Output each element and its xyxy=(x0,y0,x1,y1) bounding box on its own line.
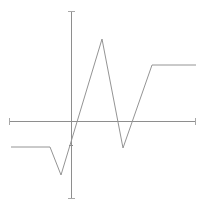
waveform-plot xyxy=(0,0,205,210)
chart-canvas xyxy=(0,0,205,210)
horizontal-axis xyxy=(9,118,196,125)
vertical-axis xyxy=(68,11,75,199)
waveform-series-line xyxy=(11,39,196,175)
